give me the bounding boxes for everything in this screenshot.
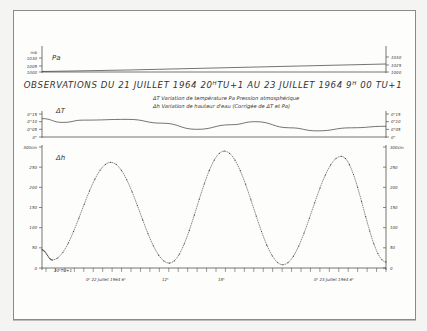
delta-h-panel: 005050100100150150200200250250300cm300cm… [23,145,404,283]
legend-line-1: ΔT Variation de température Pa Pression … [152,95,299,102]
svg-text:200: 200 [29,185,37,190]
svg-text:100: 100 [29,225,37,230]
svg-text:50: 50 [32,245,38,250]
svg-text:ΔT: ΔT [55,107,66,115]
svg-text:1000: 1000 [391,70,402,75]
svg-text:250: 250 [29,165,37,170]
svg-text:300cm: 300cm [390,145,404,150]
svg-text:300cm: 300cm [23,145,37,150]
svg-text:1025: 1025 [391,63,402,68]
svg-text:0°10: 0°10 [27,119,37,124]
svg-text:150: 150 [390,205,398,210]
svg-text:1030: 1030 [27,56,38,61]
svg-text:1030: 1030 [391,55,402,60]
pa-panel: 100010051030mb103010251000Pa [27,46,402,75]
svg-text:250: 250 [390,165,398,170]
svg-text:0: 0 [34,266,37,271]
svg-text:0°10: 0°10 [391,119,401,124]
delta-t-panel: 0°0°0°050°050°100°100°150°15ΔT [27,107,401,140]
svg-text:0°15: 0°15 [391,112,401,117]
svg-text:200: 200 [390,185,398,190]
svg-text:20ʰTU+1: 20ʰTU+1 [54,268,72,273]
svg-text:1000: 1000 [27,70,38,75]
svg-text:0ʰ 23 Juillet 1964 6ʰ: 0ʰ 23 Juillet 1964 6ʰ [314,277,354,282]
svg-text:Δh: Δh [55,154,65,162]
svg-text:0°05: 0°05 [391,127,401,132]
svg-text:18ʰ: 18ʰ [218,277,225,282]
svg-text:1005: 1005 [27,64,38,69]
svg-text:Pa: Pa [52,54,61,62]
svg-text:0ʰ 22 Juillet 1964 6ʰ: 0ʰ 22 Juillet 1964 6ʰ [86,277,126,282]
chart-canvas: 100010051030mb103010251000Pa OBSERVATION… [0,0,427,331]
svg-text:0°15: 0°15 [27,112,37,117]
chart-title: OBSERVATIONS DU 21 JUILLET 1964 20ᴴTU+1 … [24,80,403,90]
svg-text:0: 0 [390,266,393,271]
svg-text:0°05: 0°05 [27,127,37,132]
svg-text:0°: 0° [32,135,37,140]
svg-text:mb: mb [31,50,38,55]
legend-line-2: Δh Variation de hauteur d'eau (Corrigée … [152,103,290,110]
svg-text:100: 100 [390,225,398,230]
svg-text:12ʰ: 12ʰ [162,277,169,282]
svg-text:50: 50 [390,245,396,250]
svg-text:0°: 0° [391,135,396,140]
svg-text:150: 150 [29,205,37,210]
